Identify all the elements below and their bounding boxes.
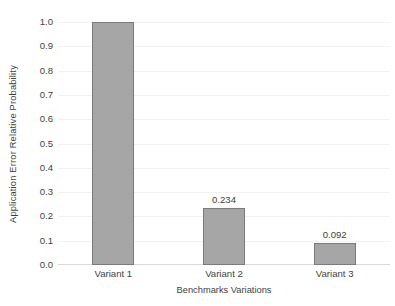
y-axis-tick-label: 0.1	[22, 236, 53, 246]
bar-slot	[58, 22, 169, 265]
plot-area: 0.2340.092	[58, 22, 390, 265]
x-axis-title: Benchmarks Variations	[58, 285, 390, 296]
y-axis-tick-label: 0.5	[22, 139, 53, 149]
y-axis-tick-label: 0.6	[22, 114, 53, 124]
y-axis-tick-label: 0.4	[22, 163, 53, 173]
bar-series: 0.2340.092	[58, 22, 390, 265]
y-axis-tick-label: 0.8	[22, 66, 53, 76]
clipped-chart-title	[0, 0, 395, 7]
y-axis-tick-label: 0.2	[22, 211, 53, 221]
bar[interactable]	[314, 243, 356, 265]
x-axis-tick-label: Variant 3	[316, 268, 354, 280]
bar[interactable]	[203, 208, 245, 265]
bar-slot: 0.092	[279, 22, 390, 265]
bar[interactable]	[92, 22, 134, 265]
y-axis-tick-label: 0.3	[22, 187, 53, 197]
bar-value-label: 0.234	[212, 194, 236, 205]
bar-value-label: 0.092	[323, 229, 347, 240]
y-axis-tick-label: 0.9	[22, 41, 53, 51]
bar-slot: 0.234	[169, 22, 280, 265]
x-axis-tick-label: Variant 1	[94, 268, 132, 280]
x-axis-tick-labels: Variant 1Variant 2Variant 3	[58, 268, 390, 282]
y-axis-tick-label: 0.0	[22, 260, 53, 270]
y-axis-title-text: Application Error Relative Probability	[8, 65, 18, 223]
y-axis-tick-label: 0.7	[22, 90, 53, 100]
bar-chart-figure: Application Error Relative Probability 1…	[0, 0, 395, 306]
y-axis-tick-labels: 1.00.90.80.70.60.50.40.30.20.10.0	[22, 22, 56, 265]
y-axis-tick-label: 1.0	[22, 17, 53, 27]
x-axis-tick-label: Variant 2	[205, 268, 243, 280]
y-axis-title: Application Error Relative Probability	[6, 22, 20, 265]
